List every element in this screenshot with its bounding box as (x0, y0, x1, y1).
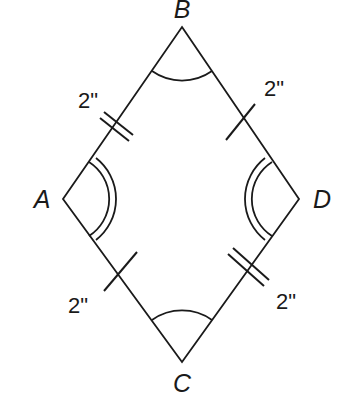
tick-mark-bd (226, 104, 255, 140)
vertex-label-b: B (174, 0, 191, 23)
side-length-bd: 2" (264, 76, 284, 101)
angle-arc-c (152, 310, 212, 320)
tick-marks-cd (228, 248, 269, 286)
vertex-label-a: A (32, 185, 51, 213)
vertex-label-d: D (313, 185, 331, 213)
vertex-label-c: C (173, 369, 192, 397)
tick-mark-ac (104, 252, 137, 291)
angle-arc-a-inner (89, 162, 109, 236)
rhombus-diagram: B A D C 2" 2" 2" 2" (0, 0, 353, 405)
side-length-cd: 2" (276, 289, 296, 314)
angle-arc-b (152, 71, 212, 81)
angle-arc-d-inner (252, 162, 272, 236)
tick-marks-ab (100, 112, 133, 141)
side-length-ac: 2" (68, 293, 88, 318)
side-length-ab: 2" (78, 88, 98, 113)
